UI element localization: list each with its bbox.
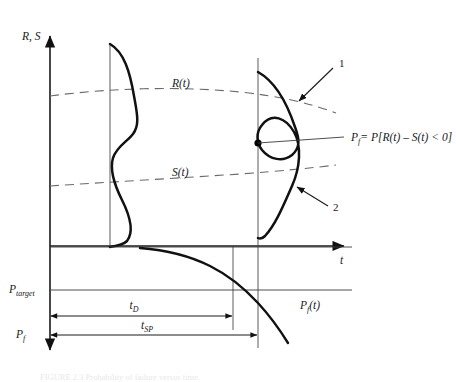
distribution-curve-section-1	[110, 44, 137, 247]
figure-caption-clipped: FIGURE 2.3 Probability of failure versus…	[0, 373, 456, 382]
svg-text:tSP: tSP	[141, 319, 153, 334]
svg-text:Pf: Pf	[15, 328, 27, 343]
svg-text:Ptarget: Ptarget	[8, 283, 36, 298]
pf-curve-p: P	[299, 299, 307, 311]
label-t-d: tD	[130, 299, 139, 314]
callout-label-2: 2	[333, 201, 339, 213]
callout-label-1: 1	[339, 57, 345, 69]
label-s-of-t: S(t)	[172, 166, 189, 179]
axis-label-t: t	[340, 254, 344, 266]
p-target-p: P	[8, 283, 16, 295]
pf-failure-probability-formula: Pf= P[R(t) – S(t) < 0]	[350, 131, 452, 146]
p-target-subscript: target	[16, 289, 36, 298]
pf-formula-body: = P[R(t) – S(t) < 0]	[360, 131, 452, 144]
figure-container: R, S t R(t) S(t) Pf= P[R(t) – S(t) < 0] …	[0, 0, 456, 382]
t-d-subscript: D	[132, 305, 139, 314]
pf-formula-p: P	[350, 131, 358, 143]
label-t-sp: tSP	[141, 319, 153, 334]
svg-text:Pf= P[R(t) – S(t) < 0]: Pf= P[R(t) – S(t) < 0]	[350, 131, 452, 146]
callout-2-arrow	[297, 187, 328, 206]
label-pf-of-t-curve: Pf(t)	[299, 299, 320, 314]
p-f-axis-subscript: f	[23, 334, 27, 343]
pf-formula-leader-line	[258, 137, 344, 143]
t-sp-subscript: SP	[144, 325, 153, 334]
label-p-target: Ptarget	[8, 283, 36, 298]
svg-text:tD: tD	[130, 299, 139, 314]
p-f-axis-p: P	[15, 328, 23, 340]
label-p-f-axis: Pf	[15, 328, 27, 343]
pf-of-t-curve	[140, 248, 288, 343]
pf-curve-arg: (t)	[309, 299, 320, 312]
callout-1-arrow	[299, 68, 333, 101]
label-r-of-t: R(t)	[171, 77, 190, 90]
axis-label-rs: R, S	[21, 30, 41, 43]
r-mean-dashed-curve	[50, 89, 336, 113]
reliability-diagram-svg: R, S t R(t) S(t) Pf= P[R(t) – S(t) < 0] …	[0, 0, 456, 382]
svg-text:Pf(t): Pf(t)	[299, 299, 320, 314]
